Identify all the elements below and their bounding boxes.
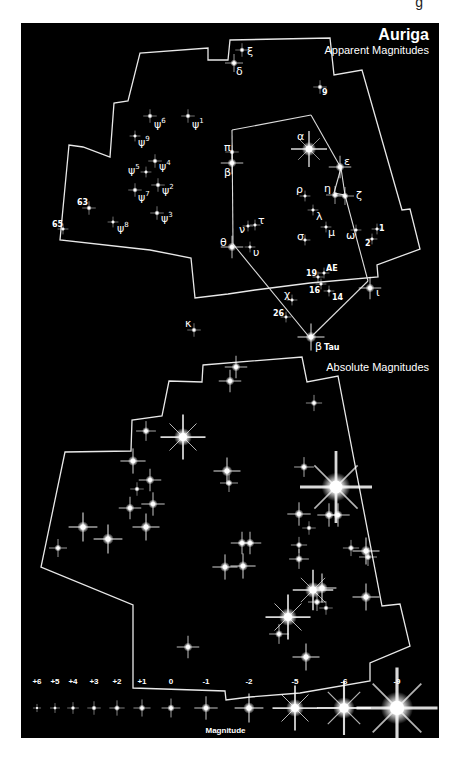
constellation-boundary-absolute xyxy=(41,357,410,700)
star-label: ψ5 xyxy=(128,163,140,177)
star-label: λ xyxy=(316,210,323,223)
legend-star-marker xyxy=(133,699,150,716)
star-label: ψ6 xyxy=(154,117,166,131)
star-marker-absolute xyxy=(289,549,309,569)
star-marker-absolute xyxy=(326,503,349,526)
star-marker-absolute xyxy=(69,513,98,542)
star-label: ψ9 xyxy=(138,135,150,149)
star-label: 63 xyxy=(77,198,88,207)
asterism-line xyxy=(311,115,341,168)
star-marker-absolute xyxy=(49,539,67,557)
star-marker-absolute xyxy=(293,644,320,671)
star-label: ν xyxy=(239,223,245,236)
star-label: 2 xyxy=(365,239,371,248)
star-label: 16 xyxy=(309,286,321,295)
star-marker-absolute xyxy=(120,448,145,473)
legend-magnitude-value: +5 xyxy=(50,677,60,686)
star-label: 19 xyxy=(306,269,318,278)
star-label: ψ1 xyxy=(192,117,204,131)
legend-magnitude-value: +4 xyxy=(68,677,78,686)
star-marker-absolute xyxy=(287,502,310,525)
star-marker-absolute xyxy=(212,554,237,579)
legend-magnitude-label: Magnitude xyxy=(0,726,451,735)
legend-magnitude-value: +2 xyxy=(112,677,122,686)
legend-magnitude-value: -2 xyxy=(245,677,253,686)
legend-star-marker xyxy=(273,686,318,731)
star-label: θ xyxy=(220,236,227,249)
star-label: ι xyxy=(376,286,380,299)
constellation-chart: ξδ9ψ6ψ1ψ9ψ5ψ4ψ2ψ7ψ3ψ86365πβαεηζρλμω12σντ… xyxy=(0,0,451,757)
star-marker-absolute xyxy=(266,595,311,640)
star-label: ψ3 xyxy=(161,211,173,225)
star-label: υ xyxy=(253,246,259,259)
star-label: 9 xyxy=(322,88,328,97)
legend-magnitude-value: +3 xyxy=(89,677,99,686)
star-label: ψ8 xyxy=(117,221,129,235)
star-label: 65 xyxy=(52,220,64,229)
star-label: η xyxy=(324,182,331,195)
star-label: ψ2 xyxy=(162,183,174,197)
star-marker-absolute xyxy=(294,457,314,477)
star-label: ξ xyxy=(247,45,253,58)
star-label: μ xyxy=(328,226,335,239)
star-label: 26 xyxy=(273,309,285,318)
star-label: π xyxy=(224,141,231,154)
star-marker-absolute xyxy=(353,584,380,611)
star-label: δ xyxy=(236,65,243,78)
constellation-title: Auriga xyxy=(378,26,429,44)
star-label: ω xyxy=(346,229,355,242)
star-marker-absolute xyxy=(219,370,242,393)
star-marker-absolute xyxy=(136,421,156,441)
star-marker-absolute xyxy=(308,574,337,603)
star-label: ψ4 xyxy=(159,159,171,173)
star-marker-absolute xyxy=(177,636,200,659)
star-label: τ xyxy=(258,214,265,227)
star-marker-absolute xyxy=(319,601,333,615)
star-marker-absolute xyxy=(220,474,238,492)
magnitude-legend: +6+5+4+3+2+10-1-2-5-6-9 xyxy=(32,668,437,749)
legend-star-marker xyxy=(33,704,41,712)
star-marker-absolute xyxy=(130,482,144,496)
star-label: ζ xyxy=(356,189,362,202)
apparent-magnitude-map: ξδ9ψ6ψ1ψ9ψ5ψ4ψ2ψ7ψ3ψ86365πβαεηζρλμω12σντ… xyxy=(52,38,420,353)
legend-magnitude-value: 0 xyxy=(169,677,174,686)
legend-star-marker xyxy=(87,701,101,715)
star-marker xyxy=(336,187,354,205)
legend-star-marker xyxy=(50,703,60,713)
star-marker-absolute xyxy=(269,624,289,644)
legend-star-marker xyxy=(162,699,181,718)
star-marker-absolute xyxy=(302,521,316,535)
legend-magnitude-value: +6 xyxy=(32,677,42,686)
star-marker-absolute xyxy=(133,514,160,541)
star-label: χ xyxy=(284,288,291,301)
legend-star-marker xyxy=(357,668,438,749)
star-label: 1 xyxy=(379,224,385,233)
star-marker-absolute xyxy=(141,492,164,515)
star-marker-absolute xyxy=(94,525,123,554)
star-label: 14 xyxy=(332,293,344,302)
asterism-line xyxy=(232,115,311,130)
legend-magnitude-value: -5 xyxy=(291,677,299,686)
legend-star-marker xyxy=(109,700,124,715)
star-label: βTau xyxy=(315,340,340,353)
star-marker-absolute xyxy=(139,469,162,492)
star-label: α xyxy=(297,130,304,143)
star-marker xyxy=(141,167,152,178)
star-label: σ xyxy=(297,230,304,243)
star-marker-absolute xyxy=(343,540,359,556)
star-marker-absolute xyxy=(230,553,255,578)
star-marker-absolute xyxy=(353,538,380,565)
star-label: ε xyxy=(344,155,350,168)
legend-magnitude-value: -1 xyxy=(202,677,210,686)
legend-magnitude-value: +1 xyxy=(137,677,147,686)
star-label: AE xyxy=(326,264,338,273)
star-marker-absolute xyxy=(225,356,248,379)
legend-star-marker xyxy=(194,696,217,719)
asterism-line xyxy=(341,168,345,195)
star-marker-absolute xyxy=(119,497,142,520)
absolute-magnitude-map xyxy=(41,356,410,700)
star-label: κ xyxy=(185,317,192,330)
star-label: ρ xyxy=(296,183,303,196)
absolute-magnitudes-subtitle: Absolute Magnitudes xyxy=(326,361,429,373)
star-label: β xyxy=(224,166,231,179)
